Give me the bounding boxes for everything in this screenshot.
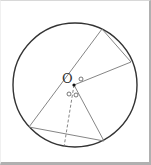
radius-ob <box>74 62 131 85</box>
center-point <box>72 83 75 86</box>
geometry-diagram: O <box>0 0 151 165</box>
chord-lower <box>29 127 104 141</box>
angle-mark-lower-right <box>74 93 78 97</box>
center-label: O <box>62 71 73 86</box>
angle-mark-lower-left <box>67 92 71 96</box>
angle-mark-upper <box>79 77 83 81</box>
radius-od <box>74 85 104 141</box>
chord-upper <box>102 29 131 62</box>
dashed-line <box>64 85 74 147</box>
